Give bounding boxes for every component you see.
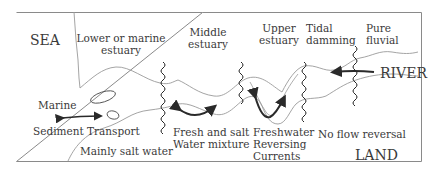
salt-water-label: Mainly salt water — [80, 146, 173, 158]
sea-label: SEA — [30, 33, 60, 49]
mixture-line1: Fresh and salt — [173, 127, 249, 139]
zone-tidal-damming: Tidal damming — [306, 23, 356, 47]
freshwater-line1: Freshwater — [253, 127, 314, 139]
boundary-upper-tidal — [302, 62, 306, 122]
sediment-bar-1 — [89, 88, 117, 106]
land-label: LAND — [355, 148, 398, 164]
boundary-tidal-fluvial — [353, 46, 357, 106]
freshwater-label: Freshwater Reversing Currents — [253, 127, 314, 162]
zone-label-line2: fluvial — [366, 35, 399, 47]
channel-inner-bank — [250, 74, 298, 115]
zone-label-line2: estuary — [186, 39, 230, 51]
zone-label-line1: Tidal — [306, 23, 356, 35]
reversing-current-arrow — [255, 96, 284, 117]
zone-label-line1: Lower or marine — [76, 33, 166, 45]
mixture-label: Fresh and salt Water mixture — [173, 127, 249, 151]
no-flow-reversal-label: No flow reversal — [318, 129, 406, 141]
zone-label-line1: Upper — [257, 23, 301, 35]
river-label: RIVER — [380, 66, 427, 82]
mixing-arrow — [179, 107, 214, 115]
marine-transport-arrow — [62, 116, 100, 118]
freshwater-line3: Currents — [253, 151, 314, 163]
boundary-lower-middle — [161, 62, 165, 134]
zone-label-line2: estuary — [76, 45, 166, 57]
zone-middle-estuary: Middle estuary — [186, 27, 230, 51]
mixture-line2: Water mixture — [173, 139, 249, 151]
zone-label-line1: Middle — [186, 27, 230, 39]
freshwater-line2: Reversing — [253, 139, 314, 151]
zone-label-line1: Pure — [366, 23, 399, 35]
zone-label-line2: damming — [306, 35, 356, 47]
zone-label-line2: estuary — [257, 35, 301, 47]
sediment-bar-2 — [106, 110, 120, 121]
marine-label: Marine — [38, 100, 76, 112]
zone-lower-estuary: Lower or marine estuary — [76, 33, 166, 57]
zone-pure-fluvial: Pure fluvial — [366, 23, 399, 47]
river-flow-arrow — [334, 71, 374, 72]
zone-upper-estuary: Upper estuary — [257, 23, 301, 47]
sediment-transport-label: Sediment Transport — [33, 126, 140, 138]
channel-upper-bank — [80, 52, 418, 97]
